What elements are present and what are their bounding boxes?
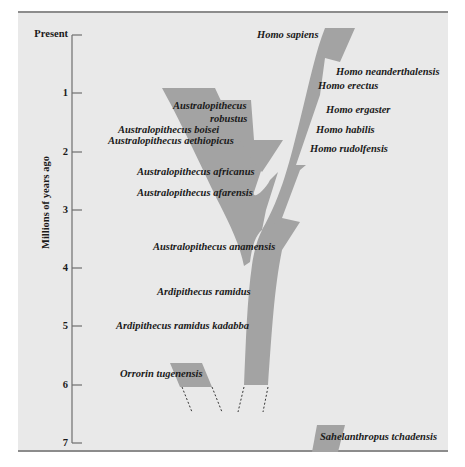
label-australopithecus-africanus: Australopithecus africanus (137, 166, 255, 178)
label-sahelanthropus-tchadensis: Sahelanthropus tchadensis (320, 431, 437, 443)
label-ardipithecus-ramidus: Ardipithecus ramidus (157, 286, 251, 298)
tick-label-4: 4 (18, 262, 68, 274)
uncertain-links (182, 387, 268, 412)
axis-title: Millions of years ago (40, 143, 51, 263)
label-homo-neanderthalensis: Homo neanderthalensis (336, 66, 440, 78)
tick-label-1: 1 (18, 87, 68, 99)
label-australopithecus-robustus-1: Australopithecus (173, 100, 247, 112)
tick-label-5: 5 (18, 320, 68, 332)
label-homo-habilis: Homo habilis (316, 124, 375, 136)
tick-label-7: 7 (18, 437, 68, 449)
tick-label-3: 3 (18, 204, 68, 216)
tick-label-6: 6 (18, 379, 68, 391)
label-homo-rudolfensis: Homo rudolfensis (310, 143, 388, 155)
label-australopithecus-afarensis: Australopithecus afarensis (137, 187, 253, 199)
label-australopithecus-anamensis: Australopithecus anamensis (153, 241, 275, 253)
label-homo-ergaster: Homo ergaster (326, 104, 390, 116)
label-homo-erectus: Homo erectus (318, 80, 378, 92)
time-axis (72, 35, 82, 443)
label-ardipithecus-ramidus-kadabba: Ardipithecus ramidus kadabba (116, 320, 249, 332)
label-australopithecus-aethiopicus: Australopithecus aethiopicus (108, 135, 234, 147)
tick-label-present: Present (18, 28, 68, 40)
tick-label-2: 2 (18, 146, 68, 158)
label-homo-sapiens: Homo sapiens (257, 29, 319, 41)
label-orrorin-tugenensis: Orrorin tugenensis (120, 368, 203, 380)
